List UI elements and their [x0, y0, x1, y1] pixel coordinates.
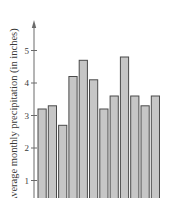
- bar-6: [90, 80, 98, 198]
- bar-3: [59, 125, 67, 198]
- bar-9: [120, 57, 128, 198]
- y-tick-label: 1: [25, 176, 30, 186]
- bar-7: [100, 109, 108, 198]
- bar-4: [69, 77, 77, 199]
- bar-2: [48, 106, 56, 198]
- y-axis-label: Average monthly precipitation (in inches…: [8, 28, 19, 198]
- bar-11: [141, 106, 149, 198]
- y-axis-arrow-icon: [32, 20, 36, 28]
- bars-group: [38, 57, 160, 198]
- bar-8: [110, 96, 118, 198]
- bar-12: [151, 96, 159, 198]
- y-tick-label: 5: [25, 46, 30, 56]
- bar-5: [79, 60, 87, 198]
- bar-10: [131, 96, 139, 198]
- bar-1: [38, 109, 46, 198]
- chart-canvas: 12345: [0, 0, 178, 198]
- y-tick-label: 2: [25, 143, 30, 153]
- y-axis: 12345: [25, 20, 38, 198]
- y-tick-label: 3: [25, 111, 30, 121]
- y-tick-label: 4: [25, 78, 30, 88]
